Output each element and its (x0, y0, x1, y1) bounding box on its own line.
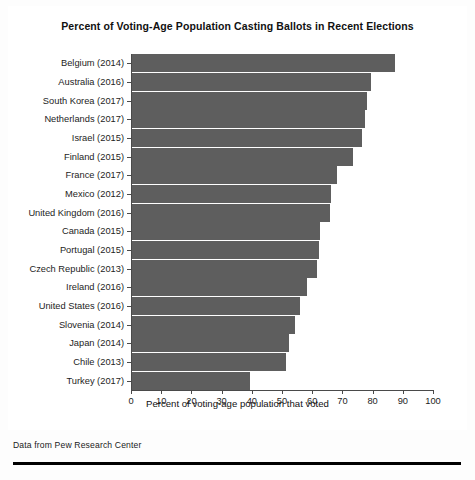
bar-fill (132, 73, 371, 91)
bar-fill (132, 185, 331, 203)
y-tick (127, 175, 131, 176)
x-tick (373, 390, 374, 394)
y-tick (127, 194, 131, 195)
plot-area: Belgium (2014)Australia (2016)South Kore… (131, 54, 433, 390)
y-tick-label: Portugal (2015) (60, 245, 124, 255)
bar-11 (132, 241, 319, 259)
x-tick (403, 390, 404, 394)
footer-divider (13, 462, 461, 465)
y-tick (127, 287, 131, 288)
y-tick (127, 269, 131, 270)
bar-17 (132, 353, 286, 371)
bar-18 (132, 372, 250, 390)
bar-14 (132, 297, 300, 315)
bar-6 (132, 148, 353, 166)
bar-fill (132, 334, 289, 352)
chart-page: Percent of Voting-Age Population Casting… (0, 0, 475, 480)
bar-9 (132, 204, 330, 222)
chart-panel: Percent of Voting-Age Population Casting… (8, 6, 467, 430)
bar-8 (132, 185, 331, 203)
y-tick-label: Mexico (2012) (65, 189, 124, 199)
y-tick-label: Czech Republic (2013) (29, 264, 124, 274)
y-tick (127, 231, 131, 232)
bar-fill (132, 204, 330, 222)
bar-fill (132, 54, 395, 72)
bar-7 (132, 166, 337, 184)
bar-16 (132, 334, 289, 352)
bar-1 (132, 54, 395, 72)
bar-13 (132, 278, 307, 296)
bar-fill (132, 372, 250, 390)
bar-fill (132, 148, 353, 166)
x-tick (342, 390, 343, 394)
bar-2 (132, 73, 371, 91)
y-tick (127, 213, 131, 214)
y-tick (127, 362, 131, 363)
y-tick-label: Japan (2014) (69, 338, 124, 348)
y-tick-label: Slovenia (2014) (59, 320, 124, 330)
x-tick (191, 390, 192, 394)
bar-fill (132, 297, 300, 315)
y-tick-label: Israel (2015) (72, 133, 124, 143)
bar-fill (132, 166, 337, 184)
y-tick (127, 138, 131, 139)
y-tick (127, 63, 131, 64)
bar-fill (132, 110, 365, 128)
y-tick (127, 82, 131, 83)
y-tick-label: United Kingdom (2016) (28, 208, 124, 218)
y-tick (127, 101, 131, 102)
bar-fill (132, 241, 319, 259)
y-tick-label: United States (2016) (39, 301, 124, 311)
y-tick (127, 343, 131, 344)
x-tick (131, 390, 132, 394)
y-tick (127, 250, 131, 251)
y-tick-label: Belgium (2014) (61, 58, 124, 68)
chart-title: Percent of Voting-Age Population Casting… (8, 20, 467, 32)
bar-fill (132, 222, 320, 240)
bar-fill (132, 353, 286, 371)
y-tick-label: France (2017) (66, 170, 124, 180)
x-tick (222, 390, 223, 394)
y-tick (127, 119, 131, 120)
x-tick (312, 390, 313, 394)
bar-fill (132, 278, 307, 296)
x-axis-title: Percent of voting-age population that vo… (8, 398, 467, 409)
bar-10 (132, 222, 320, 240)
x-tick (433, 390, 434, 394)
x-tick (161, 390, 162, 394)
bar-5 (132, 129, 362, 147)
y-tick (127, 306, 131, 307)
y-tick (127, 381, 131, 382)
y-tick-label: Ireland (2016) (66, 282, 124, 292)
bar-3 (132, 92, 367, 110)
source-caption: Data from Pew Research Center (13, 440, 142, 450)
y-tick-label: Australia (2016) (58, 77, 124, 87)
y-tick-label: Netherlands (2017) (44, 114, 124, 124)
bar-fill (132, 92, 367, 110)
y-tick-label: Turkey (2017) (66, 376, 124, 386)
y-tick (127, 157, 131, 158)
y-tick-label: Chile (2013) (73, 357, 124, 367)
bar-4 (132, 110, 365, 128)
y-tick-label: Canada (2015) (62, 226, 124, 236)
bar-fill (132, 129, 362, 147)
x-tick (252, 390, 253, 394)
bar-15 (132, 316, 295, 334)
bar-12 (132, 260, 317, 278)
y-tick (127, 325, 131, 326)
y-tick-label: Finland (2015) (64, 152, 124, 162)
bar-fill (132, 316, 295, 334)
bar-fill (132, 260, 317, 278)
x-tick (282, 390, 283, 394)
y-tick-label: South Korea (2017) (43, 96, 124, 106)
